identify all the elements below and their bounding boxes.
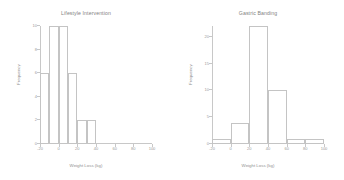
histogram-bar	[287, 139, 306, 144]
histogram-bar	[305, 139, 324, 144]
y-axis-tick	[209, 36, 212, 37]
y-axis-tick-label: 6	[35, 71, 37, 75]
x-axis-tick-label: 100	[321, 147, 328, 151]
panel-title: Lifestyle Intervention	[0, 10, 172, 16]
y-axis-line	[212, 26, 213, 144]
x-axis-tick-label: 80	[303, 147, 307, 151]
y-axis-tick-label: 15	[205, 62, 209, 66]
histogram-bar	[77, 120, 86, 144]
histogram-bar	[268, 90, 287, 144]
panel-title: Gastric Banding	[172, 10, 344, 16]
x-axis-label: Weight Loss (kg)	[172, 163, 344, 168]
x-axis-tick-label: -20	[37, 147, 43, 151]
y-axis-tick	[209, 116, 212, 117]
y-axis-label: Frequency	[16, 64, 21, 85]
y-axis-tick-label: 2	[35, 118, 37, 122]
y-axis-label: Frequency	[188, 64, 193, 85]
histogram-bar	[59, 26, 68, 144]
histogram-bar	[231, 123, 250, 144]
y-axis-tick	[209, 63, 212, 64]
histogram-figure: Lifestyle Intervention 0246810-200204060…	[0, 0, 344, 180]
y-axis-tick	[37, 25, 40, 26]
y-axis-tick-label: 4	[35, 95, 37, 99]
x-axis-tick-label: 40	[266, 147, 270, 151]
histogram-bar	[49, 26, 58, 144]
x-axis-tick-label: 80	[131, 147, 135, 151]
x-axis-tick-label: 100	[149, 147, 156, 151]
histogram-bar	[87, 120, 96, 144]
y-axis-tick	[37, 49, 40, 50]
y-axis-tick	[209, 89, 212, 90]
histogram-bar	[249, 26, 268, 144]
x-axis-tick-label: 60	[284, 147, 288, 151]
x-axis-tick-label: 20	[247, 147, 251, 151]
x-axis-tick-label: -20	[209, 147, 215, 151]
x-axis-tick-label: 20	[75, 147, 79, 151]
y-axis-tick-label: 5	[207, 115, 209, 119]
panel-lifestyle-intervention: Lifestyle Intervention 0246810-200204060…	[0, 0, 172, 180]
histogram-bar	[40, 73, 49, 144]
panel-gastric-banding: Gastric Banding 05101520-20020406080100 …	[172, 0, 344, 180]
y-axis-tick-label: 20	[205, 35, 209, 39]
plot-area-left: 0246810-20020406080100	[40, 26, 152, 144]
plot-area-right: 05101520-20020406080100	[212, 26, 324, 144]
x-axis-label: Weight Loss (kg)	[0, 163, 172, 168]
x-axis-tick-label: 0	[230, 147, 232, 151]
y-axis-tick-label: 10	[33, 24, 37, 28]
x-axis-tick-label: 0	[58, 147, 60, 151]
histogram-bar	[212, 139, 231, 144]
x-axis-tick-label: 40	[94, 147, 98, 151]
y-axis-tick-label: 10	[205, 88, 209, 92]
y-axis-tick-label: 8	[35, 48, 37, 52]
x-axis-tick-label: 60	[112, 147, 116, 151]
histogram-bar	[68, 73, 77, 144]
